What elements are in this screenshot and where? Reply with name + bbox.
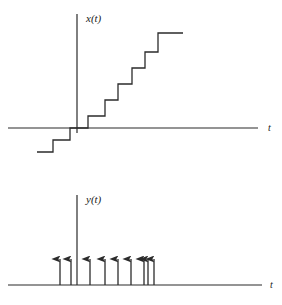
lower-x-axis-label: t [270, 279, 273, 290]
staircase-waveform [37, 33, 183, 152]
lower-plot-group: y(t) t [8, 193, 273, 290]
signal-diagram-figure: x(t) t y(t) t [0, 0, 282, 305]
upper-x-axis-label: t [268, 122, 271, 133]
upper-plot-group: x(t) t [8, 12, 271, 152]
impulse-train [60, 259, 154, 285]
lower-y-axis-label: y(t) [85, 193, 102, 206]
diagram-canvas: x(t) t y(t) t [0, 0, 282, 305]
upper-y-axis-label: x(t) [85, 12, 102, 25]
